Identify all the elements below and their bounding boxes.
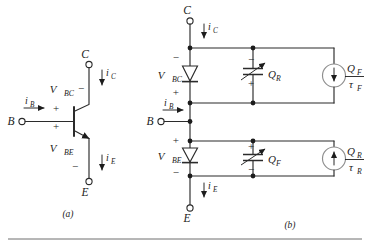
circuit-a-vbe-subscript: BE bbox=[64, 148, 74, 157]
circuit-a-vbc-minus: − bbox=[78, 82, 84, 94]
circuit-a-collector-terminal[interactable] bbox=[86, 61, 92, 67]
source-qr-numerator-subscript: R bbox=[356, 151, 362, 160]
circuit-b-ib-subscript: B bbox=[169, 103, 174, 111]
source-qr-denominator-symbol: τ bbox=[349, 161, 354, 173]
circuit-b-vbe-subscript: BE bbox=[172, 156, 182, 165]
circuit-b-base-label: B bbox=[146, 115, 153, 127]
circuit-b-vbe-minus: − bbox=[173, 166, 179, 178]
circuit-b-vbc-minus: − bbox=[173, 51, 179, 63]
circuit-a-base-terminal[interactable] bbox=[19, 118, 25, 124]
circuit-a-emitter-label: E bbox=[80, 186, 88, 198]
circuit-b-ic-label: i bbox=[208, 21, 211, 32]
circuit-a-base-label: B bbox=[7, 115, 14, 127]
node-dot bbox=[251, 46, 256, 51]
circuit-a-ib-label: i bbox=[25, 95, 28, 106]
circuit-a-vbc-plus: + bbox=[53, 102, 59, 114]
circuit-figure: C i C B i B V BC − bbox=[0, 0, 370, 245]
caption-b: (b) bbox=[284, 220, 295, 231]
circuit-b-group: C i C − V BC + bbox=[146, 4, 364, 231]
node-dot bbox=[188, 139, 193, 144]
circuit-a-ib-subscript: B bbox=[30, 101, 35, 109]
source-qf-numerator-subscript: F bbox=[356, 68, 362, 77]
node-dot bbox=[188, 46, 193, 51]
circuit-b-collector-label: C bbox=[183, 4, 191, 16]
circuit-a-vbc-symbol: V bbox=[50, 83, 58, 95]
figure-container: C i C B i B V BC − bbox=[0, 0, 370, 245]
diode-be-triangle bbox=[183, 148, 198, 162]
node-dot bbox=[251, 174, 256, 179]
capacitor-qr-charge-symbol: Q bbox=[268, 68, 276, 80]
node-dot bbox=[251, 101, 256, 106]
circuit-b-vbc-symbol: V bbox=[158, 69, 166, 81]
source-qr-denominator-subscript: R bbox=[356, 167, 362, 176]
node-dot bbox=[251, 139, 256, 144]
circuit-a-emitter-terminal[interactable] bbox=[86, 178, 92, 184]
circuit-b-vbe-plus: + bbox=[173, 134, 179, 146]
circuit-b-emitter-terminal[interactable] bbox=[187, 205, 193, 211]
circuit-a-vbe-minus: − bbox=[72, 160, 78, 172]
circuit-b-ib-label: i bbox=[164, 97, 167, 108]
circuit-a-ie-label: i bbox=[106, 152, 109, 163]
capacitor-qf-charge-subscript: F bbox=[275, 159, 281, 168]
circuit-b-ie-subscript: E bbox=[212, 186, 218, 194]
source-qf-denominator-subscript: F bbox=[356, 84, 362, 93]
circuit-a-collector-label: C bbox=[81, 48, 89, 60]
circuit-a-ie-subscript: E bbox=[110, 158, 116, 166]
circuit-a-ic-label: i bbox=[106, 67, 109, 78]
circuit-b-emitter-label: E bbox=[182, 212, 190, 224]
source-qf-denominator-symbol: τ bbox=[349, 78, 354, 90]
circuit-b-vbc-subscript: BC bbox=[172, 75, 183, 84]
circuit-b-base-terminal[interactable] bbox=[158, 118, 164, 124]
capacitor-qr-plus: + bbox=[248, 77, 254, 89]
source-qf-numerator-symbol: Q bbox=[347, 62, 355, 74]
node-dot bbox=[188, 119, 193, 124]
circuit-a-emitter-slant bbox=[75, 131, 89, 139]
capacitor-qf-minus: − bbox=[248, 163, 254, 175]
circuit-a-vbe-plus: + bbox=[53, 120, 59, 132]
circuit-a-ic-subscript: C bbox=[111, 73, 116, 81]
diode-bc-triangle bbox=[183, 66, 198, 81]
circuit-b-vbe-symbol: V bbox=[158, 150, 166, 162]
capacitor-qf-charge-symbol: Q bbox=[268, 153, 276, 165]
circuit-b-ic-subscript: C bbox=[213, 27, 218, 35]
circuit-a-vbe-symbol: V bbox=[50, 142, 58, 154]
circuit-a-group: C i C B i B V BC − bbox=[7, 48, 116, 220]
capacitor-qr-charge-subscript: R bbox=[275, 74, 281, 83]
node-dot bbox=[188, 174, 193, 179]
source-qr-numerator-symbol: Q bbox=[347, 145, 355, 157]
capacitor-qr-minus: − bbox=[248, 53, 254, 65]
circuit-b-vbc-plus: + bbox=[173, 86, 179, 98]
circuit-a-vbc-subscript: BC bbox=[64, 89, 75, 98]
node-dot bbox=[188, 101, 193, 106]
circuit-b-ie-label: i bbox=[208, 180, 211, 191]
circuit-b-collector-terminal[interactable] bbox=[187, 18, 193, 24]
caption-a: (a) bbox=[62, 209, 73, 220]
